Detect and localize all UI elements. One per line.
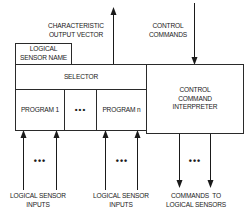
label-line: INPUTS [93, 201, 149, 210]
box-line: SENSOR NAME [16, 54, 71, 63]
label-line: LOGICAL SENSORS [166, 201, 226, 210]
box-line: COMMAND [147, 95, 243, 104]
ellipsis-text: ••• [65, 106, 96, 115]
output-vector-arrow [111, 7, 117, 64]
logical-sensor-name-text: LOGICAL SENSOR NAME [16, 45, 71, 62]
characteristic-output-vector-label: CHARACTERISTIC OUTPUT VECTOR [48, 22, 104, 39]
program-ellipsis-box: ••• [64, 89, 97, 131]
sensor-input-arrow-right-2 [135, 130, 141, 190]
program-1-box: PROGRAM 1 [15, 89, 65, 131]
logical-sensor-inputs-left-label: LOGICAL SENSOR INPUTS [10, 192, 66, 209]
selector-box: SELECTOR [15, 64, 147, 90]
program-1-text: PROGRAM 1 [16, 106, 64, 115]
label-line: COMMANDS TO [166, 192, 226, 201]
label-line: COMMANDS [149, 31, 187, 40]
box-line: LOGICAL [16, 45, 71, 54]
control-commands-label: CONTROL COMMANDS [149, 22, 187, 39]
box-line: INTERPRETER [147, 103, 243, 112]
logical-sensor-inputs-right-label: LOGICAL SENSOR INPUTS [93, 192, 149, 209]
selector-text: SELECTOR [16, 73, 146, 82]
label-line: OUTPUT VECTOR [48, 31, 104, 40]
box-line: CONTROL [147, 86, 243, 95]
sensor-input-arrow-left-1 [21, 130, 27, 190]
label-line: CONTROL [149, 22, 187, 31]
commands-out-ellipsis: ••• [189, 157, 201, 166]
program-n-text: PROGRAM n [97, 106, 146, 115]
inputs-right-ellipsis: ••• [116, 157, 128, 166]
control-commands-arrow [192, 3, 198, 65]
label-line: LOGICAL SENSOR [10, 192, 66, 201]
command-output-arrow-1 [177, 133, 183, 188]
program-n-box: PROGRAM n [96, 89, 147, 131]
control-command-interpreter-box: CONTROL COMMAND INTERPRETER [146, 64, 244, 134]
label-line: INPUTS [10, 201, 66, 210]
commands-to-logical-sensors-label: COMMANDS TO LOGICAL SENSORS [166, 192, 226, 209]
sensor-input-arrow-left-2 [54, 130, 60, 190]
label-line: LOGICAL SENSOR [93, 192, 149, 201]
logical-sensor-name-box: LOGICAL SENSOR NAME [15, 43, 72, 65]
sensor-input-arrow-right-1 [103, 130, 109, 190]
label-line: CHARACTERISTIC [48, 22, 104, 31]
inputs-left-ellipsis: ••• [34, 157, 46, 166]
command-output-arrow-2 [208, 133, 214, 188]
interpreter-text: CONTROL COMMAND INTERPRETER [147, 86, 243, 112]
